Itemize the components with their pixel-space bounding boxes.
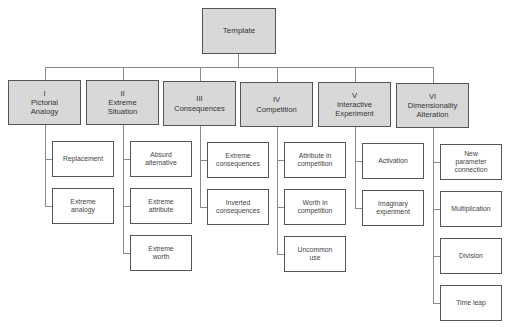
category-numeral: II — [108, 89, 138, 98]
category-title-line: Competition — [256, 105, 297, 114]
category-title-line: Consequences — [174, 104, 225, 113]
category-title-line: Experiment — [335, 109, 373, 118]
subcategory-label: Worth incompetition — [298, 199, 333, 215]
subcategory-label: Uncommonuse — [298, 246, 333, 262]
child-branch-line — [277, 254, 284, 255]
child-spine-line — [277, 127, 278, 254]
subcategory-label-line: competition — [298, 207, 333, 215]
subcategory-label-line: attribute — [148, 206, 173, 214]
category-numeral: V — [335, 91, 373, 100]
subcategory-label-line: parameter — [455, 158, 488, 166]
subcategory-node: Absurdalternative — [130, 141, 192, 177]
subcategory-label-line: Activation — [378, 157, 407, 165]
subcategory-label: Attribute incompetition — [298, 152, 333, 168]
child-branch-line — [45, 206, 52, 207]
subcategory-label: Imaginaryexperiment — [376, 200, 410, 216]
subcategory-node: Multiplication — [440, 191, 502, 227]
subcategory-label: Extremeattribute — [148, 198, 173, 214]
category-title-line: Pictorial — [31, 98, 58, 107]
child-branch-line — [277, 160, 284, 161]
category-node-2: IIExtremeSituation — [86, 80, 159, 125]
subcategory-label-line: Extreme — [148, 245, 173, 253]
subcategory-label: Extremeanalogy — [70, 198, 95, 214]
subcategory-label-line: Extreme — [70, 198, 95, 206]
subcategory-label-line: Inverted — [216, 199, 260, 207]
subcategory-label: Time leap — [456, 299, 486, 307]
child-branch-line — [123, 253, 130, 254]
subcategory-label-line: analogy — [70, 206, 95, 214]
child-branch-line — [123, 206, 130, 207]
subcategory-label: Absurdalternative — [145, 151, 176, 167]
subcategory-label: Multiplication — [451, 205, 490, 213]
category-numeral: VI — [408, 92, 457, 101]
subcategory-label-line: Time leap — [456, 299, 486, 307]
subcategory-node: Newparameterconnection — [440, 144, 502, 180]
subcategory-label-line: Multiplication — [451, 205, 490, 213]
child-branch-line — [355, 208, 362, 209]
category-title-line: Alteration — [408, 110, 457, 119]
category-title-line: Analogy — [31, 107, 58, 116]
subcategory-node: Worth incompetition — [284, 189, 346, 225]
subcategory-node: Uncommonuse — [284, 236, 346, 272]
child-spine-line — [200, 126, 201, 207]
category-node-1: IPictorialAnalogy — [8, 80, 81, 125]
child-spine-line — [355, 127, 356, 208]
subcategory-label-line: Uncommon — [298, 246, 333, 254]
category-drop-line — [355, 67, 356, 82]
category-label: IPictorialAnalogy — [31, 89, 58, 116]
subcategory-node: Division — [440, 238, 502, 274]
subcategory-label: Activation — [378, 157, 407, 165]
category-node-4: IVCompetition — [240, 82, 313, 127]
child-branch-line — [277, 207, 284, 208]
subcategory-label-line: New — [455, 150, 488, 158]
root-connector — [238, 54, 239, 67]
subcategory-label-line: experiment — [376, 208, 410, 216]
subcategory-node: Replacement — [52, 141, 114, 177]
subcategory-label-line: worth — [148, 253, 173, 261]
subcategory-node: Extremeattribute — [130, 188, 192, 224]
subcategory-label-line: Extreme — [216, 152, 260, 160]
subcategory-label-line: Worth in — [298, 199, 333, 207]
category-drop-line — [200, 67, 201, 81]
subcategory-node: Imaginaryexperiment — [362, 190, 424, 226]
template-tree-diagram: Template IPictorialAnalogyReplacementExt… — [0, 0, 512, 327]
subcategory-node: Activation — [362, 143, 424, 179]
subcategory-label: Division — [459, 252, 483, 260]
child-branch-line — [433, 209, 440, 210]
subcategory-node: Invertedconsequences — [207, 189, 269, 225]
child-spine-line — [123, 125, 124, 253]
child-spine-line — [45, 125, 46, 206]
subcategory-label-line: consequences — [216, 207, 260, 215]
subcategory-node: Extremeconsequences — [207, 142, 269, 178]
subcategory-label-line: Attribute in — [298, 152, 333, 160]
child-branch-line — [433, 303, 440, 304]
subcategory-node: Extremeworth — [130, 235, 192, 271]
category-drop-line — [277, 67, 278, 82]
category-title-line: Extreme — [108, 98, 138, 107]
root-label: Template — [223, 26, 255, 36]
child-branch-line — [433, 256, 440, 257]
child-spine-line — [433, 128, 434, 303]
root-node-template: Template — [202, 8, 276, 54]
child-branch-line — [355, 161, 362, 162]
category-drop-line — [123, 67, 124, 80]
subcategory-label-line: use — [298, 254, 333, 262]
subcategory-label-line: Absurd — [145, 151, 176, 159]
child-branch-line — [123, 159, 130, 160]
subcategory-node: Extremeanalogy — [52, 188, 114, 224]
category-node-6: VIDimensionalityAlteration — [396, 83, 469, 128]
category-drop-line — [45, 67, 46, 80]
subcategory-label-line: Division — [459, 252, 483, 260]
category-title-line: Dimensionality — [408, 101, 457, 110]
category-label: IVCompetition — [256, 95, 297, 113]
subcategory-label-line: consequences — [216, 160, 260, 168]
subcategory-label: Newparameterconnection — [455, 150, 488, 174]
category-label: IIExtremeSituation — [108, 89, 138, 116]
subcategory-label-line: Replacement — [63, 155, 103, 163]
category-label: VInteractiveExperiment — [335, 91, 373, 118]
subcategory-node: Attribute incompetition — [284, 142, 346, 178]
category-numeral: III — [174, 94, 225, 103]
category-bus-line — [45, 67, 433, 68]
subcategory-label-line: Imaginary — [376, 200, 410, 208]
subcategory-label: Extremeconsequences — [216, 152, 260, 168]
